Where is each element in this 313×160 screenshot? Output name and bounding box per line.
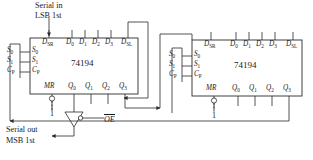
chip-left-label-q2-sub: 2: [107, 85, 110, 91]
chip-left-label-q0: Q0: [68, 83, 76, 92]
chip-left-label-d0-sub: 0: [71, 41, 74, 47]
chip-left-label-s1-outer: S1: [7, 57, 13, 66]
schematic-canvas: [0, 0, 313, 160]
chip-left-label-q1: Q1: [85, 83, 93, 92]
chip-right-label-s0-outer: S0: [169, 51, 175, 60]
chip-right-label-s0-outer-sub: 0: [173, 53, 176, 59]
chip-right-label-mr: MR: [206, 85, 216, 92]
chip-left-label-s1-outer-sub: 1: [11, 59, 14, 65]
chip-left-part-number: 74194: [71, 59, 94, 68]
serial-in-label-line1: Serial in: [35, 2, 63, 10]
chip-left-label-q2: Q2: [102, 83, 110, 92]
chip-left-label-cp-outer-sub: P: [12, 69, 15, 75]
chip-left-label-s0-outer: S0: [7, 47, 13, 56]
chip-left-label-d0: D0: [66, 39, 74, 48]
chip-left-label-cp-inner: CP: [32, 67, 40, 76]
chip-right-label-cp-inner-sub: P: [199, 73, 202, 79]
serial-out-label-line2: MSB 1st: [6, 137, 35, 145]
chip-right-mr-tie-value: 1: [212, 112, 216, 120]
chip-right-label-q0: Q0: [232, 85, 240, 94]
chip-right-label-dsl-sub: SL: [291, 43, 297, 49]
chip-left-label-q1-sub: 1: [90, 85, 93, 91]
chip-left-label-cp-outer: CP: [7, 67, 15, 76]
chip-right-label-dsr: DSR: [204, 41, 216, 50]
chip-right-label-q0-sub: 0: [237, 87, 240, 93]
chip-right-label-d3-sub: 3: [274, 43, 277, 49]
chip-left-mr-inversion-bubble: [49, 96, 54, 101]
chip-right-label-cp-outer-sub: P: [174, 73, 177, 79]
chip-left-label-mr: MR: [44, 83, 54, 90]
chip-left-label-dsl-sub: SL: [126, 41, 132, 47]
chip-right-label-s1-inner-sub: 1: [198, 63, 201, 69]
chip-left-label-d3: D3: [105, 39, 113, 48]
chip-left-label-dsl: DSL: [121, 39, 132, 48]
chip-right-label-d1: D1: [243, 41, 251, 50]
chip-right-label-q3: Q3: [283, 85, 291, 94]
tristate-enable-bubble: [78, 116, 82, 120]
chip-right-label-s0-inner: S0: [194, 51, 200, 60]
chip-left-label-d1-sub: 1: [84, 41, 87, 47]
chip-right-label-d1-sub: 1: [248, 43, 251, 49]
output-enable-text: OE: [104, 114, 115, 124]
chip-right-label-q1: Q1: [249, 85, 257, 94]
serial-in-label-line2: LSB 1st: [35, 12, 62, 20]
chip-right-label-s1-outer: S1: [169, 61, 175, 70]
chip-right-label-s1-inner: S1: [194, 61, 200, 70]
chip-right-label-cp-outer: CP: [169, 71, 177, 80]
chip-left-label-s0-inner-sub: 0: [36, 49, 39, 55]
chip-left-label-d2: D2: [92, 39, 100, 48]
chip-right-label-dsr-sub: SR: [209, 43, 215, 49]
chip-left-label-s0-inner: S0: [32, 47, 38, 56]
chip-right-label-d2: D2: [256, 41, 264, 50]
schematic-diagram: Serial in LSB 1st Serial out MSB 1st OE …: [0, 0, 313, 160]
chip-right-part-number: 74194: [234, 61, 257, 70]
chip-right-label-dsl: DSL: [286, 41, 297, 50]
chip-left-label-q0-sub: 0: [73, 85, 76, 91]
chip-right-label-cp-inner: CP: [194, 71, 202, 80]
chip-right-label-s0-inner-sub: 0: [198, 53, 201, 59]
chip-right-label-d0-sub: 0: [235, 43, 238, 49]
chip-left-label-dsr-sub: SR: [47, 41, 53, 47]
chip-right-label-q1-sub: 1: [254, 87, 257, 93]
chip-right-mr-inversion-bubble: [211, 98, 216, 103]
chip-left-label-d1: D1: [79, 39, 87, 48]
chip-left-label-q3-sub: 3: [124, 85, 127, 91]
chip-right-label-d3: D3: [269, 41, 277, 50]
serial-out-label-line1: Serial out: [6, 126, 38, 134]
chip-left-label-d2-sub: 2: [97, 41, 100, 47]
chip-left-label-cp-inner-sub: P: [37, 69, 40, 75]
chip-left-mr-tie-value: 1: [50, 110, 54, 118]
chip-left-label-s0-outer-sub: 0: [11, 49, 14, 55]
chip-right-label-q2: Q2: [266, 85, 274, 94]
chip-left-label-s1-inner: S1: [32, 57, 38, 66]
output-enable-label: OE: [104, 114, 115, 124]
chip-left-label-dsr: DSR: [42, 39, 54, 48]
chip-right-label-d2-sub: 2: [261, 43, 264, 49]
chip-left-label-q3: Q3: [119, 83, 127, 92]
chip-right-label-q3-sub: 3: [288, 87, 291, 93]
chip-left-label-d3-sub: 3: [110, 41, 113, 47]
chip-right-label-q2-sub: 2: [271, 87, 274, 93]
chip-right-label-d0: D0: [230, 41, 238, 50]
chip-right-label-s1-outer-sub: 1: [173, 63, 176, 69]
chip-left-label-s1-inner-sub: 1: [36, 59, 39, 65]
